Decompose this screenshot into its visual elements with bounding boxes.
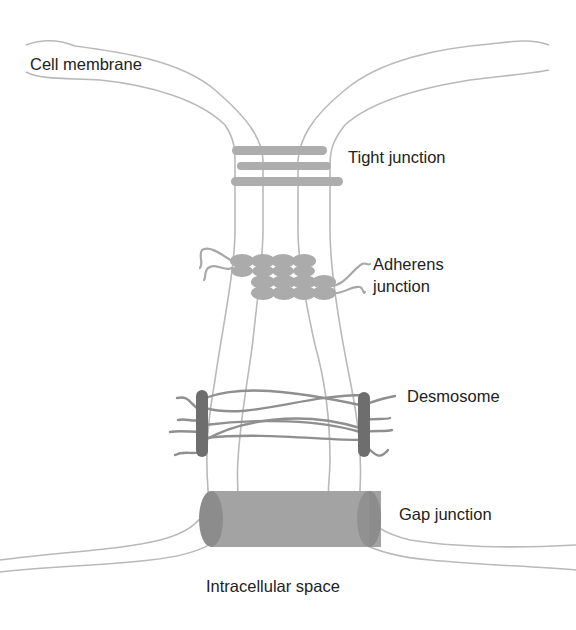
label-adherens-junction-line2: junction bbox=[373, 276, 430, 296]
label-intracellular-space: Intracellular space bbox=[206, 576, 340, 596]
label-cell-membrane: Cell membrane bbox=[30, 54, 142, 74]
label-desmosome: Desmosome bbox=[407, 386, 500, 406]
tight-junction-strands bbox=[231, 146, 343, 186]
label-tight-junction: Tight junction bbox=[348, 147, 446, 167]
gap-junction bbox=[199, 491, 381, 547]
label-gap-junction: Gap junction bbox=[399, 504, 492, 524]
label-adherens-junction-line1: Adherens bbox=[373, 254, 444, 274]
diagram-canvas bbox=[0, 0, 576, 630]
right-cell-membrane bbox=[298, 41, 576, 570]
adherens-junction bbox=[200, 249, 370, 300]
cell-junction-diagram: Cell membrane Tight junction Adherens ju… bbox=[0, 0, 576, 630]
desmosome bbox=[170, 390, 395, 457]
